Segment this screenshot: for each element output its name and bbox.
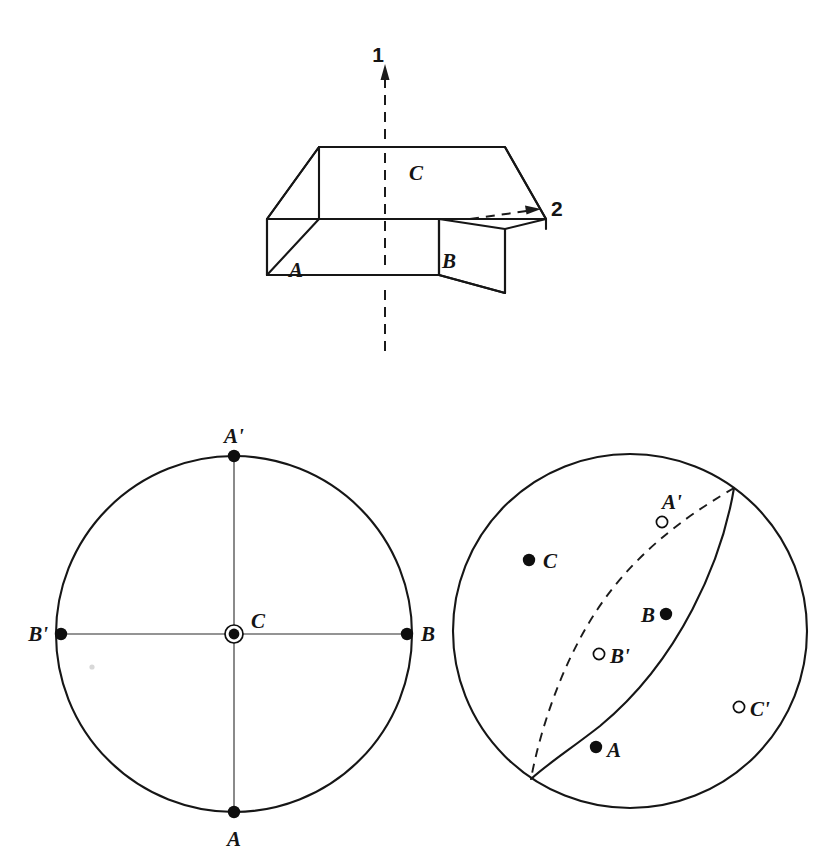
axis-2-dashed-line	[470, 211, 527, 219]
left-pole-C[interactable]	[225, 625, 243, 643]
right-pole-C[interactable]	[523, 554, 535, 566]
scan-speck	[89, 664, 94, 669]
left-label-A-prime: A'	[222, 424, 244, 448]
right-pole-A[interactable]	[590, 741, 602, 753]
right-label-C-prime: C'	[750, 697, 770, 721]
left-label-C: C	[251, 609, 266, 633]
left-pole-B[interactable]	[401, 628, 413, 640]
right-stereogram: A' C B B' C' A	[453, 454, 807, 808]
axis-1-label: 1	[372, 43, 384, 66]
block-diagram: 1 2	[267, 43, 563, 357]
right-pole-B-prime[interactable]	[593, 648, 604, 659]
figure-root: 1 2	[0, 0, 839, 863]
block-face-label-A: A	[287, 258, 303, 282]
block-top-face	[267, 147, 546, 219]
right-pole-A-prime[interactable]	[656, 516, 667, 527]
block-face-label-B: B	[441, 249, 456, 273]
right-pole-C-prime[interactable]	[733, 701, 744, 712]
left-pole-B-prime[interactable]	[55, 628, 67, 640]
right-label-B: B	[640, 603, 655, 627]
left-label-B-prime: B'	[27, 622, 48, 646]
right-label-A-prime: A'	[660, 490, 682, 514]
right-label-B-prime: B'	[609, 644, 630, 668]
left-pole-A[interactable]	[228, 806, 240, 818]
left-pole-A-prime[interactable]	[228, 450, 240, 462]
right-label-C: C	[543, 549, 558, 573]
left-label-B: B	[420, 622, 435, 646]
right-primitive-circle	[453, 454, 807, 808]
figure-canvas: 1 2	[0, 0, 839, 863]
left-stereogram: A' B B' A C	[27, 424, 435, 851]
right-label-A: A	[605, 738, 621, 762]
axis-2-label: 2	[551, 197, 563, 220]
block-face-label-C: C	[409, 161, 424, 185]
axis-1-arrowhead	[381, 64, 390, 80]
right-great-circle-dashed	[531, 488, 734, 779]
right-pole-B[interactable]	[660, 608, 672, 620]
right-great-circle-solid	[531, 488, 734, 779]
left-label-A: A	[225, 827, 241, 851]
